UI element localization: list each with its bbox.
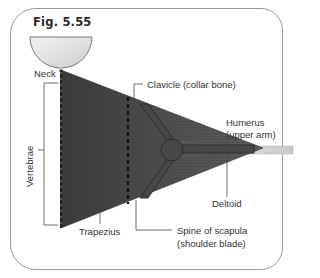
label-spine-line1: Spine of scapula <box>177 225 247 236</box>
label-clavicle: Clavicle (collar bone) <box>147 79 236 90</box>
label-humerus-line2: (upper arm) <box>226 129 276 140</box>
vertebrae-bracket <box>44 83 58 225</box>
label-neck: Neck <box>34 68 56 79</box>
label-humerus-line1: Humerus <box>226 117 265 128</box>
label-vertebrae: Vertebrae <box>24 146 35 187</box>
label-deltoid: Deltoid <box>212 198 242 209</box>
label-spine-line2: (shoulder blade) <box>177 238 246 249</box>
label-trapezius: Trapezius <box>79 226 120 237</box>
spine-leader <box>136 200 172 230</box>
head-icon <box>30 37 92 72</box>
